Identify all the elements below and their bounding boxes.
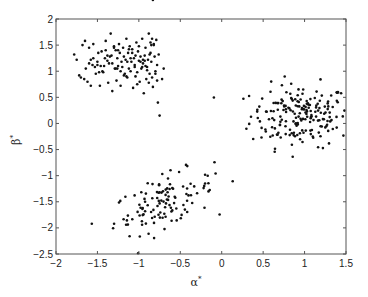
data-point: [119, 70, 122, 73]
data-point: [86, 80, 89, 83]
data-point: [142, 62, 145, 65]
data-point: [145, 222, 148, 225]
data-point: [168, 204, 171, 207]
data-point: [115, 79, 118, 82]
data-point: [158, 200, 161, 203]
data-point: [128, 235, 131, 238]
data-point: [309, 121, 312, 124]
data-point: [128, 67, 131, 70]
data-point: [134, 54, 137, 57]
data-point: [326, 120, 329, 123]
data-point: [158, 202, 161, 205]
x-tick-label: 0.5: [256, 258, 270, 269]
data-point: [318, 107, 321, 110]
x-tick-label: −0.5: [170, 258, 190, 269]
x-tick-label: 1.5: [339, 258, 353, 269]
data-point: [317, 146, 320, 149]
data-point: [96, 64, 99, 67]
data-point: [213, 96, 216, 99]
data-point: [164, 215, 167, 218]
data-point: [103, 65, 106, 68]
data-point: [296, 134, 299, 137]
data-point: [189, 183, 192, 186]
data-point: [293, 113, 296, 116]
data-point: [271, 134, 274, 137]
data-point: [269, 91, 272, 94]
data-point: [248, 95, 251, 98]
data-point: [317, 109, 320, 112]
data-point: [203, 207, 206, 210]
data-point: [314, 97, 317, 100]
data-point: [213, 161, 216, 164]
data-point: [332, 128, 335, 131]
x-tick-label: 0: [219, 258, 225, 269]
data-point: [151, 183, 154, 186]
data-point: [122, 218, 125, 221]
data-point: [133, 66, 136, 69]
data-point: [279, 124, 282, 127]
data-point: [106, 60, 109, 63]
data-point: [279, 120, 282, 123]
data-point: [328, 111, 331, 114]
data-point: [265, 130, 268, 133]
data-point: [154, 70, 157, 73]
data-point: [311, 129, 314, 132]
data-point: [331, 106, 334, 109]
data-point: [160, 199, 163, 202]
data-point: [148, 81, 151, 84]
data-point: [292, 110, 295, 113]
data-point: [327, 130, 330, 133]
data-point: [162, 67, 165, 70]
data-point: [91, 64, 94, 67]
data-point: [270, 80, 273, 83]
data-point: [138, 45, 141, 48]
data-point: [299, 118, 302, 121]
scatter-chart: −2−1.5−1−0.500.511.5 −2.5−2−1.5−1−0.500.…: [0, 0, 368, 297]
data-point: [144, 65, 147, 68]
data-point: [310, 115, 313, 118]
data-point: [261, 97, 264, 100]
data-point: [131, 218, 134, 221]
data-point: [186, 187, 189, 190]
data-point: [289, 93, 292, 96]
data-point: [257, 117, 260, 120]
data-point: [335, 126, 338, 129]
data-point: [182, 185, 185, 188]
data-point: [182, 204, 185, 207]
data-point: [148, 53, 151, 56]
data-point: [340, 92, 343, 95]
data-point: [95, 73, 98, 76]
data-point: [139, 61, 142, 64]
data-point: [143, 60, 146, 63]
data-point: [153, 43, 156, 46]
data-point: [143, 92, 146, 95]
data-point: [139, 235, 142, 238]
data-point: [284, 133, 287, 136]
data-point: [94, 66, 97, 69]
data-point: [315, 115, 318, 118]
data-point: [274, 102, 277, 105]
data-point: [121, 66, 124, 69]
data-point: [133, 57, 136, 60]
y-tick-label: −1: [42, 170, 54, 181]
data-point: [148, 73, 151, 76]
data-point: [259, 120, 262, 123]
data-point: [242, 98, 245, 101]
data-point: [297, 88, 300, 91]
data-point: [123, 55, 126, 58]
data-point: [330, 94, 333, 97]
data-point: [283, 75, 286, 78]
data-point: [167, 177, 170, 180]
data-point: [135, 41, 138, 44]
data-point: [104, 57, 107, 60]
data-point: [163, 212, 166, 215]
data-point: [111, 90, 114, 93]
data-point: [127, 52, 130, 55]
data-point: [88, 62, 91, 65]
data-point: [92, 57, 95, 60]
data-point: [170, 207, 173, 210]
data-point: [84, 40, 87, 43]
data-point: [306, 115, 309, 118]
data-point: [314, 111, 317, 114]
data-point: [186, 165, 189, 168]
